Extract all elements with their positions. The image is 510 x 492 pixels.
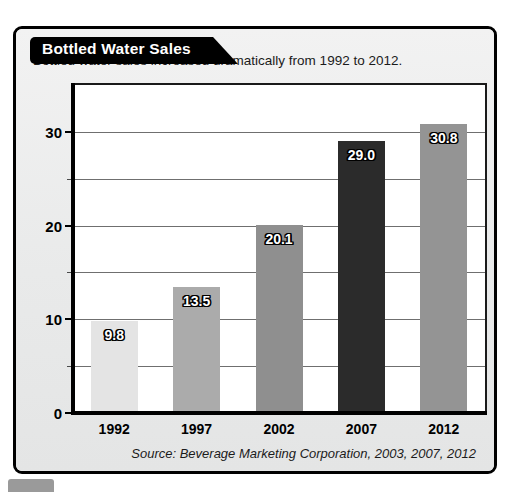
corner-tab [8, 479, 54, 492]
bar-1997: 13.5 [173, 287, 220, 414]
bar-2007: 29.0 [338, 141, 385, 413]
plot-area: 9.813.520.129.030.8 0102030 [73, 85, 485, 413]
plot-frame: 9.813.520.129.030.8 0102030 [71, 83, 487, 415]
bar-value-label-2002: 20.1 [265, 231, 292, 247]
chart-card: Bottled Water Sales Bottled water sales … [13, 26, 497, 474]
y-tick-label-0: 0 [54, 405, 62, 422]
bar-value-label-1992: 9.8 [104, 327, 123, 343]
bar-value-label-1997: 13.5 [183, 293, 210, 309]
bar-value-label-2012: 30.8 [430, 130, 457, 146]
x-axis-baseline [71, 411, 487, 415]
x-tick-label-2007: 2007 [346, 421, 377, 437]
x-tick-label-2012: 2012 [428, 421, 459, 437]
y-axis-line [71, 83, 75, 415]
x-tick-label-1992: 1992 [99, 421, 130, 437]
x-tick-label-2002: 2002 [263, 421, 294, 437]
page-title: Bottled Water Sales [42, 40, 191, 58]
bar-value-label-2007: 29.0 [348, 147, 375, 163]
bar-1992: 9.8 [91, 321, 138, 413]
y-tick-label-20: 20 [45, 217, 62, 234]
bar-2002: 20.1 [256, 225, 303, 413]
y-tick-label-10: 10 [45, 311, 62, 328]
x-tick-label-1997: 1997 [181, 421, 212, 437]
source-note: Source: Beverage Marketing Corporation, … [131, 446, 476, 461]
bar-2012: 30.8 [420, 124, 467, 413]
y-tick-label-30: 30 [45, 123, 62, 140]
